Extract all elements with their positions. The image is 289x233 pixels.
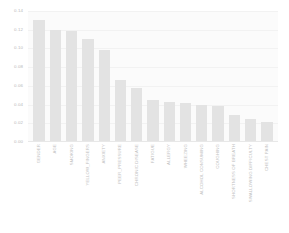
x-axis-tick-label: YELLOW_FINGERS — [86, 144, 90, 186]
bar-slot — [194, 11, 210, 142]
plot-area — [28, 11, 278, 142]
bar — [196, 105, 207, 142]
bar-slot — [145, 11, 161, 142]
x-label-slot: COUGHING — [210, 144, 226, 230]
bar-slot — [96, 11, 112, 142]
x-label-slot: AGE — [47, 144, 63, 230]
x-axis-tick-label: ANXIETY — [102, 144, 106, 163]
y-axis-tick-label: 0.04 — [14, 102, 23, 106]
bar — [82, 39, 93, 142]
x-label-slot: WHEEZING — [177, 144, 193, 230]
x-axis-tick-label: SWALLOWING DIFFICULTY — [248, 144, 252, 202]
x-axis-tick-label: CHEST PAIN — [265, 144, 269, 171]
x-label-slot: FATIGUE — [145, 144, 161, 230]
x-axis-tick-label: PEER_PRESSURE — [118, 144, 122, 184]
x-label-slot: SHORTNESS OF BREATH — [226, 144, 242, 230]
x-axis-tick-label: AGE — [53, 144, 57, 154]
x-axis-tick-label: COUGHING — [216, 144, 220, 169]
x-label-slot: CHRONIC DISEASE — [129, 144, 145, 230]
bar — [261, 122, 272, 142]
x-axis-tick-label: ALLERGY — [167, 144, 171, 165]
y-axis-tick-label: 0.00 — [14, 140, 23, 144]
bar-slot — [177, 11, 193, 142]
bar — [229, 115, 240, 142]
bar-slot — [226, 11, 242, 142]
x-axis-tick-label: SMOKING — [70, 144, 74, 165]
bar-slot — [259, 11, 275, 142]
x-label-slot: ALCOHOL CONSUMING — [194, 144, 210, 230]
y-axis-tick-label: 0.08 — [14, 65, 23, 69]
bar — [180, 103, 191, 142]
y-axis-tick-label: 0.10 — [14, 46, 23, 50]
bar-slot — [64, 11, 80, 142]
x-label-slot: CHEST PAIN — [259, 144, 275, 230]
x-label-slot: SWALLOWING DIFFICULTY — [242, 144, 258, 230]
x-label-slot: YELLOW_FINGERS — [80, 144, 96, 230]
x-axis-tick-label: GENDER — [37, 144, 41, 163]
bar — [131, 88, 142, 142]
bar-slot — [47, 11, 63, 142]
x-axis-baseline — [28, 141, 278, 142]
bar — [164, 102, 175, 142]
y-axis-tick-label: 0.12 — [14, 28, 23, 32]
bar-slot — [80, 11, 96, 142]
bar — [99, 50, 110, 142]
bar — [50, 30, 61, 142]
x-axis-tick-label: FATIGUE — [151, 144, 155, 163]
x-axis-tick-label: ALCOHOL CONSUMING — [200, 144, 204, 195]
y-axis-tick-label: 0.02 — [14, 121, 23, 125]
feature-importance-bar-chart: 0.000.020.040.060.080.100.120.14 GENDERA… — [0, 0, 289, 233]
bar-slot — [112, 11, 128, 142]
bar-slot — [31, 11, 47, 142]
bar — [147, 100, 158, 142]
bar-slot — [129, 11, 145, 142]
x-axis-tick-label: WHEEZING — [183, 144, 187, 168]
x-label-slot: SMOKING — [64, 144, 80, 230]
bar — [33, 20, 44, 142]
x-label-slot: GENDER — [31, 144, 47, 230]
y-axis-tick-label: 0.06 — [14, 84, 23, 88]
x-label-slot: ALLERGY — [161, 144, 177, 230]
bar-slot — [161, 11, 177, 142]
bar — [245, 119, 256, 142]
bar-series — [28, 11, 278, 142]
x-label-slot: ANXIETY — [96, 144, 112, 230]
y-axis: 0.000.020.040.060.080.100.120.14 — [0, 11, 26, 142]
bar — [212, 106, 223, 142]
bar-slot — [210, 11, 226, 142]
x-label-slot: PEER_PRESSURE — [112, 144, 128, 230]
x-axis-tick-label: SHORTNESS OF BREATH — [232, 144, 236, 199]
bar — [115, 80, 126, 142]
x-axis-tick-labels: GENDERAGESMOKINGYELLOW_FINGERSANXIETYPEE… — [28, 144, 278, 230]
bar-slot — [242, 11, 258, 142]
y-axis-tick-label: 0.14 — [14, 9, 23, 13]
x-axis-tick-label: CHRONIC DISEASE — [135, 144, 139, 186]
bar — [66, 31, 77, 142]
